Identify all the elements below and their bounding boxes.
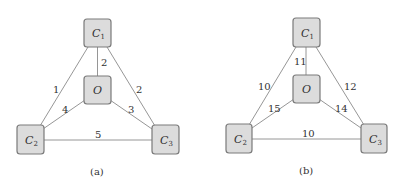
weight-o-c3: 14 <box>335 103 348 114</box>
weight-o-c2: 4 <box>62 104 68 115</box>
diagram-canvas: 2 1 2 4 3 5 C1 O C2 C3 (a) <box>0 0 400 184</box>
weight-c2-c3: 5 <box>95 129 101 140</box>
node-o: O <box>293 75 320 103</box>
caption-a: (a) <box>90 166 104 177</box>
weight-c1-o: 11 <box>294 56 307 67</box>
node-c1: C1 <box>293 18 320 47</box>
panel-a: 2 1 2 4 3 5 C1 O C2 C3 (a) <box>17 19 179 177</box>
weight-c1-c3: 12 <box>344 81 357 92</box>
node-c3: C3 <box>361 124 387 153</box>
svg-text:O: O <box>302 83 311 96</box>
weight-c2-c3: 10 <box>302 128 315 139</box>
weight-o-c3: 3 <box>128 104 134 115</box>
node-o: O <box>84 76 111 104</box>
weight-c1-o: 2 <box>101 57 107 68</box>
weight-c1-c2: 1 <box>53 84 59 95</box>
weight-c1-c3: 2 <box>136 84 142 95</box>
caption-b: (b) <box>299 165 313 176</box>
node-c2: C2 <box>17 125 44 154</box>
node-c1: C1 <box>84 19 111 47</box>
node-c3: C3 <box>152 125 179 154</box>
node-c2: C2 <box>226 124 252 153</box>
weight-o-c2: 15 <box>268 103 281 114</box>
panel-b: 11 10 12 15 14 10 C1 O C2 C3 (b) <box>226 18 387 176</box>
weight-c1-c2: 10 <box>258 81 271 92</box>
svg-text:O: O <box>93 84 102 97</box>
